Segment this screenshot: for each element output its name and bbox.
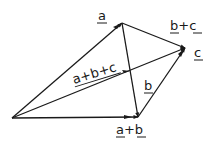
vector-a-plus-b-plus-c-arrow	[12, 48, 185, 118]
label-a-plus-b: a+b	[116, 122, 143, 137]
arrowhead-a-mid	[113, 23, 122, 29]
label-a-plus-b-plus-c-group: a+b+c	[70, 58, 120, 86]
label-a-plus-b-plus-c: a+b+c	[70, 59, 118, 87]
label-a: a	[98, 8, 106, 23]
label-c: c	[194, 45, 201, 60]
vector-a-plus-b-arrow	[12, 117, 138, 118]
label-b-plus-c: b+c	[170, 18, 196, 33]
arrowhead-a-plus-b-mid	[124, 115, 132, 119]
label-b: b	[144, 78, 152, 93]
vector-addition-diagram: a b+c c b a+b a+b+c	[0, 0, 219, 143]
